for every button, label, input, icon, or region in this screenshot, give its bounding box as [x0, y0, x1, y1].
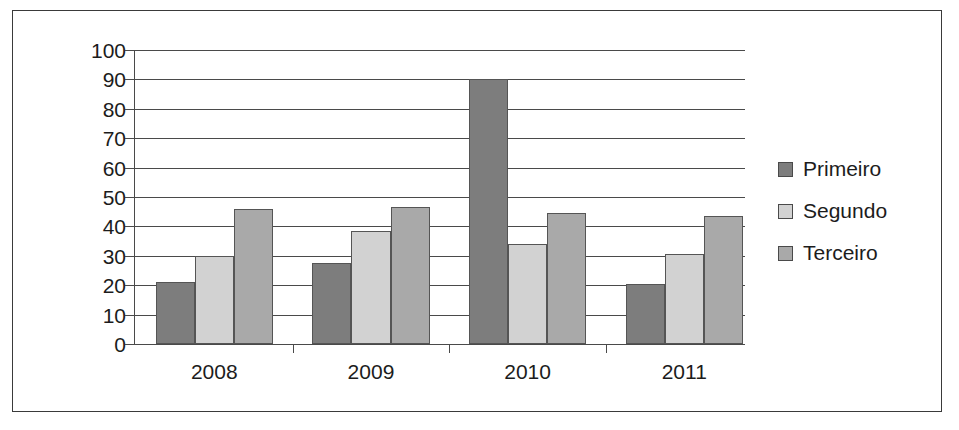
legend-swatch-icon: [778, 162, 793, 177]
x-axis-category-label: 2011: [614, 360, 754, 384]
x-axis-category-label: 2009: [301, 360, 441, 384]
bar: [195, 256, 234, 344]
legend-label: Terceiro: [803, 241, 878, 265]
y-axis-tick-mark: [125, 79, 134, 80]
x-axis-category-label: 2010: [458, 360, 598, 384]
bar: [351, 231, 390, 344]
y-axis-tick-mark: [125, 109, 134, 110]
y-axis-tick-mark: [125, 344, 134, 345]
y-axis-tick-label: 30: [56, 245, 126, 266]
x-axis-line: [125, 344, 745, 345]
y-axis-tick-label: 100: [56, 40, 126, 61]
bar: [508, 244, 547, 344]
y-axis-tick-mark: [125, 226, 134, 227]
x-axis-separator-tick: [293, 344, 294, 353]
legend-swatch-icon: [778, 246, 793, 261]
bar: [626, 284, 665, 344]
legend-item: Segundo: [778, 190, 928, 232]
bar: [391, 207, 430, 344]
y-axis-tick-mark: [125, 168, 134, 169]
y-axis-tick-label: 50: [56, 187, 126, 208]
chart-legend: PrimeiroSegundoTerceiro: [778, 148, 928, 274]
y-axis-tick-label: 60: [56, 157, 126, 178]
bar: [704, 216, 743, 344]
legend-label: Primeiro: [803, 157, 881, 181]
legend-item: Terceiro: [778, 232, 928, 274]
plot-area: 2008200920102011: [134, 50, 745, 344]
y-axis-tick-labels: 0102030405060708090100: [56, 38, 126, 356]
bar: [234, 209, 273, 344]
y-axis-tick-mark: [125, 50, 134, 51]
bar: [469, 79, 508, 344]
y-axis-tick-label: 40: [56, 216, 126, 237]
y-axis-tick-mark: [125, 315, 134, 316]
y-axis-tick-mark: [125, 197, 134, 198]
bar: [156, 282, 195, 344]
y-axis-tick-label: 10: [56, 304, 126, 325]
x-axis-separator-tick: [449, 344, 450, 353]
y-axis-tick-label: 80: [56, 98, 126, 119]
y-axis-tick-label: 20: [56, 275, 126, 296]
y-axis-tick-label: 90: [56, 69, 126, 90]
legend-item: Primeiro: [778, 148, 928, 190]
legend-swatch-icon: [778, 204, 793, 219]
x-axis-separator-tick: [606, 344, 607, 353]
x-axis-category-label: 2008: [144, 360, 284, 384]
bar: [312, 263, 351, 344]
bar-series-group: [134, 50, 745, 344]
y-axis-tick-label: 0: [56, 334, 126, 355]
legend-label: Segundo: [803, 199, 887, 223]
y-axis-tick-mark: [125, 256, 134, 257]
bar: [665, 254, 704, 344]
y-axis-tick-label: 70: [56, 128, 126, 149]
bar-chart: 0102030405060708090100 2008200920102011 …: [0, 0, 959, 430]
bar: [547, 213, 586, 344]
y-axis-tick-mark: [125, 285, 134, 286]
y-axis-tick-mark: [125, 138, 134, 139]
chart-figure: 0102030405060708090100 2008200920102011 …: [0, 0, 959, 430]
